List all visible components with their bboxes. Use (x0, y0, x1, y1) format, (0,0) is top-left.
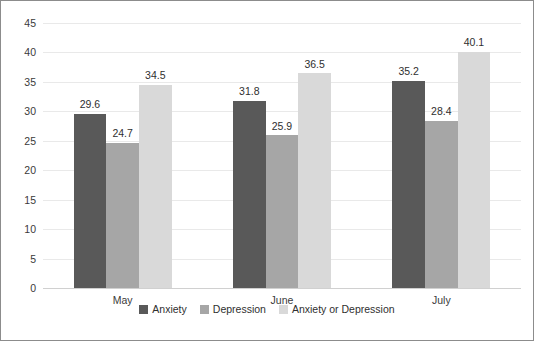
bar-value-label: 34.5 (145, 70, 165, 81)
legend-item[interactable]: Anxiety or Depression (279, 304, 395, 315)
bar-value-label: 24.7 (112, 128, 132, 139)
bar-group: 29.624.734.5May (74, 23, 172, 288)
y-axis-tick-label: 30 (24, 106, 36, 117)
bar-value-label: 29.6 (80, 99, 100, 110)
legend-swatch-icon (279, 305, 288, 314)
y-axis-tick-label: 45 (24, 18, 36, 29)
bar-fill (425, 121, 458, 288)
bar-chart-figure: 05101520253035404529.624.734.5May31.825.… (0, 0, 534, 341)
bar-value-label: 25.9 (272, 121, 292, 132)
y-axis-tick-label: 20 (24, 165, 36, 176)
bar-group: 31.825.936.5June (233, 23, 331, 288)
chart-legend: AnxietyDepressionAnxiety or Depression (1, 304, 533, 315)
plot-area: 05101520253035404529.624.734.5May31.825.… (43, 23, 521, 288)
bar-value-label: 35.2 (398, 66, 418, 77)
bar-value-label: 28.4 (431, 106, 451, 117)
y-axis-tick-label: 25 (24, 136, 36, 147)
bar-fill (266, 135, 299, 288)
bar-value-label: 31.8 (239, 86, 259, 97)
bar-group: 35.228.440.1July (392, 23, 490, 288)
gridline (43, 288, 521, 289)
y-axis-tick-label: 5 (30, 253, 36, 264)
bar-fill (233, 101, 266, 288)
bar-fill (298, 73, 331, 288)
y-axis-tick-label: 10 (24, 224, 36, 235)
bar-fill (392, 81, 425, 288)
legend-swatch-icon (200, 305, 209, 314)
legend-item[interactable]: Anxiety (139, 304, 186, 315)
y-axis-tick-label: 40 (24, 47, 36, 58)
y-axis-tick-label: 35 (24, 77, 36, 88)
bar-value-label: 40.1 (464, 37, 484, 48)
legend-item[interactable]: Depression (200, 304, 266, 315)
bar-fill (106, 143, 139, 288)
y-axis-tick-label: 15 (24, 194, 36, 205)
bar-value-label: 36.5 (304, 59, 324, 70)
bar-fill (139, 85, 172, 288)
bar-fill (458, 52, 491, 288)
bar-group-bars: 35.228.440.1 (392, 23, 490, 288)
y-axis-tick-label: 0 (30, 283, 36, 294)
bar-group-bars: 29.624.734.5 (74, 23, 172, 288)
legend-label: Anxiety (152, 304, 186, 315)
legend-label: Depression (213, 304, 266, 315)
bar-fill (74, 114, 107, 288)
bar-group-bars: 31.825.936.5 (233, 23, 331, 288)
legend-swatch-icon (139, 305, 148, 314)
legend-label: Anxiety or Depression (292, 304, 395, 315)
